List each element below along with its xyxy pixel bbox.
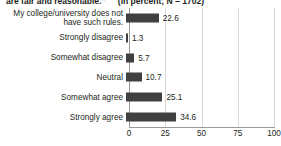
bar-track: 5.7 [126, 48, 281, 68]
x-tick-label: 50 [197, 129, 206, 138]
bar-track: 22.6 [126, 8, 281, 28]
bar-value-label: 34.6 [176, 113, 196, 122]
x-axis-ticks: 0255075100 [129, 129, 274, 143]
bar-track: 1.3 [126, 28, 281, 48]
x-tick-label: 25 [161, 129, 170, 138]
chart-title-sub: (in percent; N = 1702) [118, 0, 204, 6]
bar [126, 113, 176, 122]
bar-row: Neutral10.7 [0, 68, 281, 88]
bar-row: Strongly disagree1.3 [0, 28, 281, 48]
x-axis-line [129, 127, 275, 128]
bar-rows: My college/university does not have such… [0, 8, 281, 127]
bar-row: My college/university does not have such… [0, 8, 281, 28]
bar-value-label: 22.6 [159, 13, 179, 22]
category-label: Somewhat agree [0, 93, 126, 102]
bar-row: Somewhat disagree5.7 [0, 48, 281, 68]
bar-value-label: 1.3 [128, 33, 143, 42]
category-label: Somewhat disagree [0, 53, 126, 62]
bar [126, 13, 159, 22]
x-tick-label: 0 [127, 129, 132, 138]
bar-track: 10.7 [126, 68, 281, 88]
bar-chart: are fair and reasonable." (in percent; N… [0, 0, 281, 146]
bar-row: Somewhat agree25.1 [0, 87, 281, 107]
bar [126, 73, 142, 82]
bar-track: 25.1 [126, 87, 281, 107]
x-tick-label: 75 [233, 129, 242, 138]
category-label: Strongly disagree [0, 33, 126, 42]
category-label: My college/university does not have such… [0, 9, 126, 27]
chart-title-clipped: are fair and reasonable." (in percent; N… [0, 0, 281, 6]
bar-value-label: 25.1 [162, 93, 182, 102]
bar-track: 34.6 [126, 107, 281, 127]
bar-value-label: 5.7 [134, 53, 149, 62]
bar-row: Strongly agree34.6 [0, 107, 281, 127]
bar [126, 53, 134, 62]
x-tick-label: 100 [267, 129, 281, 138]
bar [126, 93, 162, 102]
chart-title-main: are fair and reasonable." [6, 0, 105, 6]
category-label: Neutral [0, 73, 126, 82]
bar-value-label: 10.7 [142, 73, 162, 82]
category-label: Strongly agree [0, 113, 126, 122]
